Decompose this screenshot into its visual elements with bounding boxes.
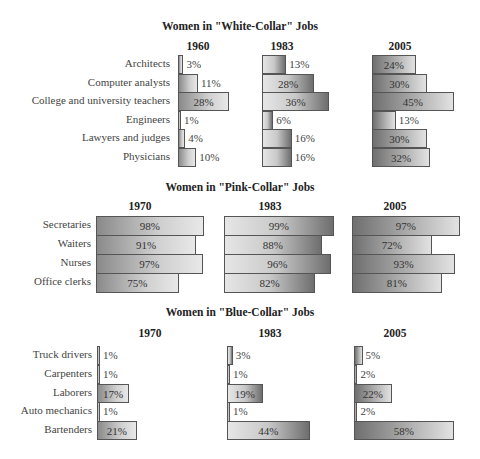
bar-value: 36% — [263, 94, 328, 110]
bar-value: 99% — [225, 218, 333, 234]
category-label: Laborers — [53, 386, 92, 398]
bar: 28% — [178, 92, 229, 111]
bar: 21% — [97, 421, 137, 440]
category-label: Office clerks — [34, 275, 91, 287]
bar — [97, 346, 100, 365]
bar-value: 19% — [228, 386, 262, 402]
bar: 36% — [262, 92, 329, 111]
bar-value: 93% — [353, 256, 454, 272]
bar — [178, 148, 196, 167]
bar: 17% — [97, 384, 129, 403]
bar: 96% — [224, 254, 331, 274]
category-label: Carpenters — [44, 367, 92, 379]
bar-value: 44% — [228, 423, 309, 439]
bar-value: 3% — [236, 347, 251, 363]
year-header: 2005 — [365, 200, 425, 212]
bar — [354, 346, 363, 365]
bar: 88% — [224, 235, 322, 255]
category-label: Lawyers and judges — [82, 131, 170, 143]
bar: 32% — [372, 148, 430, 167]
category-label: Physicians — [123, 150, 170, 162]
bar-value: 28% — [179, 94, 228, 110]
bar — [178, 111, 181, 130]
bar-value: 13% — [289, 56, 309, 72]
bar-value: 22% — [355, 386, 391, 402]
bar — [262, 148, 292, 167]
year-header: 2005 — [365, 327, 425, 339]
bar — [97, 365, 100, 384]
bar — [262, 111, 273, 130]
section-title: Women in "Pink-Collar" Jobs — [0, 181, 480, 193]
category-label: Truck drivers — [33, 348, 92, 360]
bar: 28% — [262, 74, 314, 93]
category-label: College and university teachers — [32, 94, 170, 106]
bar-value: 91% — [97, 237, 195, 253]
bar: 44% — [227, 421, 310, 440]
bar — [227, 365, 230, 384]
category-label: Auto mechanics — [21, 404, 92, 416]
bar-value: 6% — [276, 112, 291, 128]
bar: 75% — [96, 273, 179, 293]
category-label: Engineers — [126, 113, 170, 125]
category-label: Architects — [125, 57, 170, 69]
bar — [227, 346, 233, 365]
bar-value: 96% — [225, 256, 330, 272]
bar-value: 30% — [373, 76, 426, 92]
bar: 91% — [96, 235, 196, 255]
bar-value: 1% — [103, 403, 118, 419]
bar — [372, 111, 396, 130]
bar-value: 13% — [399, 112, 419, 128]
bar: 72% — [352, 235, 432, 255]
bar — [227, 402, 230, 421]
year-header: 1970 — [110, 200, 170, 212]
year-header: 1983 — [252, 40, 312, 52]
bar-value: 28% — [263, 76, 313, 92]
bar-value: 2% — [360, 403, 375, 419]
bar: 97% — [96, 254, 203, 274]
bar-value: 4% — [188, 130, 203, 146]
bar-value: 81% — [353, 275, 441, 291]
bar — [178, 55, 183, 74]
year-header: 1983 — [240, 327, 300, 339]
bar: 93% — [352, 254, 455, 274]
bar: 98% — [96, 216, 204, 236]
bar-value: 97% — [353, 218, 459, 234]
bar: 81% — [352, 273, 442, 293]
bar-value: 1% — [103, 366, 118, 382]
bar — [262, 55, 286, 74]
bar-value: 30% — [373, 131, 426, 147]
bar: 99% — [224, 216, 334, 236]
section-title: Women in "White-Collar" Jobs — [0, 20, 480, 32]
bar-value: 1% — [233, 403, 248, 419]
bar-value: 45% — [373, 94, 453, 110]
bar-value: 24% — [373, 57, 415, 73]
bar-value: 82% — [225, 275, 314, 291]
bar — [354, 365, 357, 384]
bar — [178, 129, 185, 148]
bar: 30% — [372, 74, 427, 93]
bar-value: 21% — [98, 423, 136, 439]
bar-value: 16% — [295, 149, 315, 165]
bar-value: 11% — [201, 75, 221, 91]
bar-value: 16% — [295, 130, 315, 146]
year-header: 1970 — [120, 327, 180, 339]
section-title: Women in "Blue-Collar" Jobs — [0, 306, 480, 318]
bar: 22% — [354, 384, 392, 403]
bar-value: 17% — [98, 386, 128, 402]
bar — [97, 402, 100, 421]
bar-value: 72% — [353, 237, 431, 253]
bar: 82% — [224, 273, 315, 293]
bar — [178, 74, 198, 93]
bar-value: 10% — [199, 149, 219, 165]
bar: 45% — [372, 92, 454, 111]
bar: 24% — [372, 55, 416, 74]
bar-value: 1% — [103, 347, 118, 363]
bar-value: 58% — [355, 423, 453, 439]
bar-value: 75% — [97, 275, 178, 291]
bar-value: 32% — [373, 150, 429, 166]
bar — [262, 129, 292, 148]
bar-value: 88% — [225, 237, 321, 253]
year-header: 1960 — [168, 40, 228, 52]
category-label: Secretaries — [43, 218, 91, 230]
category-label: Bartenders — [44, 423, 92, 435]
